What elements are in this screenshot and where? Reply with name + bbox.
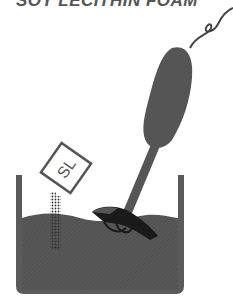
lecithin-packet: SL <box>41 143 91 193</box>
blender-shaft-icon <box>122 142 160 218</box>
powder-stream-icon-2 <box>56 196 61 250</box>
immersion-blender-icon <box>143 47 192 148</box>
power-cord-icon <box>190 8 233 48</box>
powder-stream-icon <box>50 192 56 250</box>
soy-lecithin-foam-illustration: SL <box>0 0 233 300</box>
liquid-icon <box>22 214 178 291</box>
